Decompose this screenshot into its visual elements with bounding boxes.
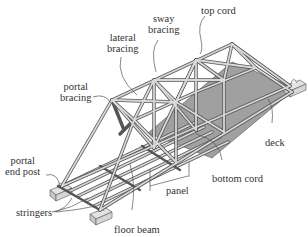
label-sway-bracing: sway bracing	[148, 13, 180, 35]
bridge-illustration	[0, 0, 308, 237]
label-panel: panel	[166, 185, 189, 196]
label-bottom-cord: bottom cord	[212, 173, 263, 184]
label-sway-bracing-line1: sway	[148, 13, 180, 24]
label-stringers: stringers	[16, 207, 52, 218]
label-portal-end-post: portal end post	[5, 155, 40, 177]
label-lateral-bracing: lateral bracing	[107, 32, 139, 54]
label-lateral-bracing-line2: bracing	[107, 43, 139, 54]
label-portal-bracing: portal bracing	[60, 81, 92, 103]
label-lateral-bracing-line1: lateral	[107, 32, 139, 43]
label-portal-end-post-line1: portal	[5, 155, 40, 166]
label-portal-end-post-line2: end post	[5, 166, 40, 177]
label-portal-bracing-line1: portal	[60, 81, 92, 92]
label-floor-beam: floor beam	[114, 224, 160, 235]
label-portal-bracing-line2: bracing	[60, 92, 92, 103]
truss-bridge-diagram: top cord sway bracing lateral bracing po…	[0, 0, 308, 237]
label-sway-bracing-line2: bracing	[148, 24, 180, 35]
label-top-cord: top cord	[201, 5, 236, 16]
label-deck: deck	[265, 137, 285, 148]
